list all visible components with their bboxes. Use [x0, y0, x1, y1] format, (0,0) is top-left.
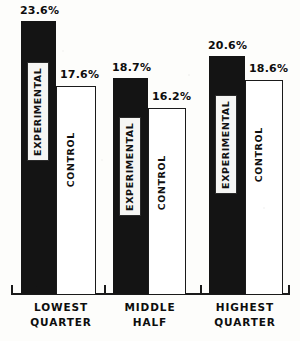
category-label-middle-half: MIDDLE HALF — [105, 300, 195, 330]
series-label-experimental-1: EXPERIMENTAL — [33, 67, 43, 155]
value-label-highest-quarter-control: 18.6% — [249, 63, 288, 74]
series-label-box-lowest-quarter-control: CONTROL — [62, 125, 80, 195]
value-label-highest-quarter-experimental: 20.6% — [208, 40, 247, 51]
series-label-control-3: CONTROL — [254, 127, 264, 182]
series-label-experimental-3: EXPERIMENTAL — [221, 100, 231, 188]
series-label-control-2: CONTROL — [157, 155, 167, 210]
value-label-lowest-quarter-experimental: 23.6% — [20, 5, 59, 16]
axis-tick-right — [288, 285, 290, 294]
series-plaque-lowest-quarter-experimental: EXPERIMENTAL — [27, 62, 49, 161]
category-label-lowest-quarter-line1: LOWEST — [16, 300, 106, 315]
series-label-control-1: CONTROL — [66, 132, 76, 187]
series-plaque-middle-half-experimental: EXPERIMENTAL — [119, 117, 141, 216]
bar-chart: 23.6% EXPERIMENTAL 17.6% CONTROL LOWEST … — [0, 0, 300, 341]
category-label-highest-quarter: HIGHEST QUARTER — [200, 300, 290, 330]
category-label-lowest-quarter-line2: QUARTER — [16, 315, 106, 330]
plot-area: 23.6% EXPERIMENTAL 17.6% CONTROL LOWEST … — [0, 0, 300, 341]
category-label-middle-half-line1: MIDDLE — [105, 300, 195, 315]
series-label-box-middle-half-control: CONTROL — [153, 148, 171, 218]
category-label-highest-quarter-line2: QUARTER — [200, 315, 290, 330]
series-plaque-highest-quarter-experimental: EXPERIMENTAL — [215, 95, 237, 194]
axis-tick-left — [11, 285, 13, 294]
category-label-middle-half-line2: HALF — [105, 315, 195, 330]
category-label-lowest-quarter: LOWEST QUARTER — [16, 300, 106, 330]
axis-tick-2 — [200, 285, 202, 294]
axis-tick-1 — [104, 285, 106, 294]
value-label-lowest-quarter-control: 17.6% — [60, 69, 99, 80]
value-label-middle-half-control: 16.2% — [152, 91, 191, 102]
category-label-highest-quarter-line1: HIGHEST — [200, 300, 290, 315]
series-label-box-highest-quarter-control: CONTROL — [250, 120, 268, 190]
series-label-experimental-2: EXPERIMENTAL — [125, 122, 135, 210]
value-label-middle-half-experimental: 18.7% — [112, 62, 151, 73]
